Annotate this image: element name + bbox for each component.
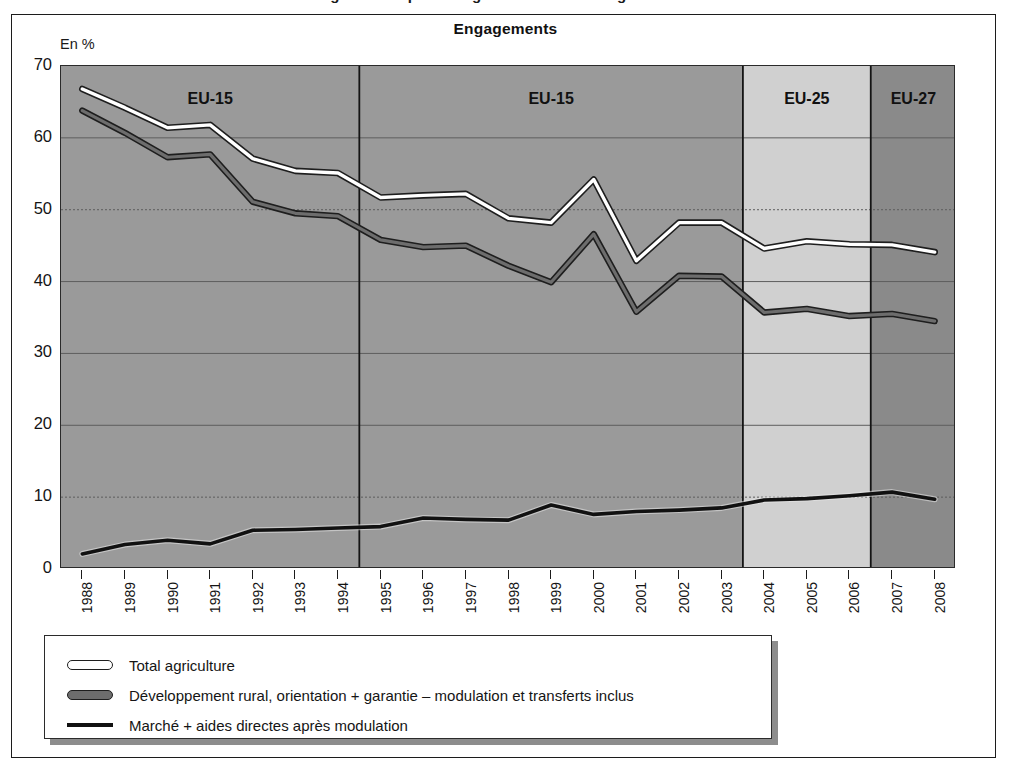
x-tick-label-1992: 1992 <box>250 582 266 613</box>
y-tick-label-50: 50 <box>6 199 52 218</box>
x-tick-label-1989: 1989 <box>122 582 138 613</box>
x-tick-label-2005: 2005 <box>804 582 820 613</box>
x-tick-1989 <box>124 570 125 579</box>
y-tick-label-60: 60 <box>6 127 52 146</box>
band-label-eu-25-2: EU-25 <box>784 90 829 107</box>
x-tick-1988 <box>81 570 82 579</box>
x-tick-2001 <box>635 570 636 579</box>
x-tick-2006 <box>848 570 849 579</box>
x-tick-1999 <box>550 570 551 579</box>
x-tick-label-1993: 1993 <box>292 582 308 613</box>
y-tick-label-10: 10 <box>6 486 52 505</box>
x-tick-label-2003: 2003 <box>719 582 735 613</box>
x-tick-1990 <box>167 570 168 579</box>
x-tick-label-1988: 1988 <box>79 582 95 613</box>
x-tick-2000 <box>593 570 594 579</box>
y-tick-label-70: 70 <box>6 55 52 74</box>
y-tick-label-30: 30 <box>6 342 52 361</box>
x-tick-1993 <box>294 570 295 579</box>
x-tick-2003 <box>721 570 722 579</box>
y-tick-label-20: 20 <box>6 414 52 433</box>
x-tick-label-1994: 1994 <box>335 582 351 613</box>
x-tick-label-2008: 2008 <box>932 582 948 613</box>
x-tick-label-1999: 1999 <box>548 582 564 613</box>
x-tick-label-2007: 2007 <box>889 582 905 613</box>
chart-page: Figure 1 : Dépenses agricoles dans le bu… <box>0 0 1011 776</box>
x-tick-label-2001: 2001 <box>633 582 649 613</box>
y-tick-label-0: 0 <box>6 558 52 577</box>
x-tick-label-1996: 1996 <box>420 582 436 613</box>
chart-canvas: EU-15EU-15EU-25EU-27 <box>61 66 955 568</box>
x-tick-1998 <box>508 570 509 579</box>
x-tick-label-1995: 1995 <box>378 582 394 613</box>
legend-swatch-rural-icon <box>67 690 113 700</box>
legend-swatch-market-icon <box>67 723 113 727</box>
band-label-eu-15-0: EU-15 <box>187 90 232 107</box>
legend-item-rural[interactable]: Développement rural, orientation + garan… <box>67 680 634 710</box>
legend-label-rural: Développement rural, orientation + garan… <box>129 687 634 704</box>
legend-label-market: Marché + aides directes après modulation <box>129 717 408 734</box>
legend-item-total[interactable]: Total agriculture <box>67 650 235 680</box>
x-tick-1995 <box>380 570 381 579</box>
supertitle-clip: Figure 1 : Dépenses agricoles dans le bu… <box>0 0 1011 13</box>
plot-area: EU-15EU-15EU-25EU-27 <box>60 65 955 568</box>
figure-supertitle: Figure 1 : Dépenses agricoles dans le bu… <box>0 0 1011 3</box>
y-axis-labels: 010203040506070 <box>0 65 52 568</box>
band-label-eu-15-1: EU-15 <box>528 90 573 107</box>
x-tick-1997 <box>465 570 466 579</box>
x-tick-label-2002: 2002 <box>676 582 692 613</box>
y-axis-unit-label: En % <box>60 36 95 52</box>
x-tick-2008 <box>934 570 935 579</box>
x-tick-2007 <box>891 570 892 579</box>
x-tick-1991 <box>209 570 210 579</box>
band-label-eu-27-3: EU-27 <box>891 90 936 107</box>
x-tick-2005 <box>806 570 807 579</box>
background-band-eu-15-0 <box>61 66 359 568</box>
x-tick-label-2000: 2000 <box>591 582 607 613</box>
x-tick-label-2004: 2004 <box>761 582 777 613</box>
x-tick-1992 <box>252 570 253 579</box>
x-axis-labels: 1988198919901991199219931994199519961997… <box>60 570 955 625</box>
x-tick-2004 <box>763 570 764 579</box>
legend-box: Total agricultureDéveloppement rural, or… <box>44 635 772 739</box>
y-tick-label-40: 40 <box>6 271 52 290</box>
legend-label-total: Total agriculture <box>129 657 235 674</box>
background-band-eu-15-1 <box>359 66 743 568</box>
x-tick-label-1990: 1990 <box>165 582 181 613</box>
x-tick-label-2006: 2006 <box>846 582 862 613</box>
chart-title: Engagements <box>0 20 1011 38</box>
legend-swatch-total-icon <box>67 660 113 670</box>
x-tick-label-1997: 1997 <box>463 582 479 613</box>
legend-item-market[interactable]: Marché + aides directes après modulation <box>67 710 408 740</box>
x-tick-2002 <box>678 570 679 579</box>
x-tick-1996 <box>422 570 423 579</box>
x-tick-1994 <box>337 570 338 579</box>
x-tick-label-1991: 1991 <box>207 582 223 613</box>
x-tick-label-1998: 1998 <box>506 582 522 613</box>
